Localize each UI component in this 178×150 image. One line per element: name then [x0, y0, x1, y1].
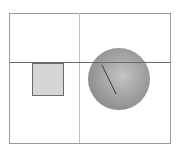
diagram-canvas [0, 0, 178, 150]
square-shape [33, 64, 64, 96]
sphere-shape [88, 48, 150, 110]
